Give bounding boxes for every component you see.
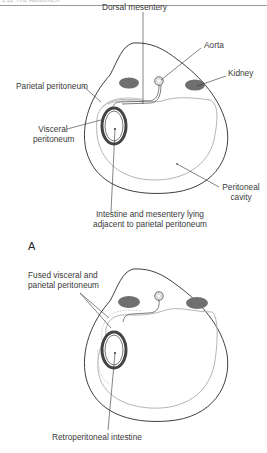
- aorta-a: [155, 77, 163, 85]
- label-aorta: Aorta: [204, 40, 224, 50]
- kidney-right-a: [185, 80, 205, 91]
- leader-intestine: [111, 129, 115, 212]
- label-peritoneal-cavity: Peritoneal cavity: [218, 182, 264, 202]
- label-parietal-peritoneum: Parietal peritoneum: [16, 81, 88, 91]
- label-visceral-peritoneum: Visceral peritoneum: [33, 124, 73, 144]
- label-dorsal-mesentery: Dorsal mesentery: [102, 2, 167, 12]
- leader-fused-2: [80, 293, 111, 328]
- leader-fused-1: [80, 293, 109, 318]
- aorta-b: [155, 292, 163, 300]
- panel-label-a: A: [28, 240, 35, 252]
- label-kidney: Kidney: [228, 68, 253, 78]
- kidney-right-b: [186, 297, 208, 309]
- leader-aorta: [161, 48, 201, 80]
- label-intestine-mesentery: Intestine and mesentery lying adjacent t…: [88, 209, 212, 229]
- figure-b: [80, 269, 228, 430]
- label-retroperitoneal-intestine: Retroperitoneal intestine: [52, 432, 142, 442]
- label-fused-peritoneum: Fused visceral and parietal peritoneum: [28, 270, 99, 290]
- kidney-left-a: [119, 78, 139, 89]
- kidney-left-b: [118, 296, 140, 308]
- mesentery-a: [112, 85, 159, 108]
